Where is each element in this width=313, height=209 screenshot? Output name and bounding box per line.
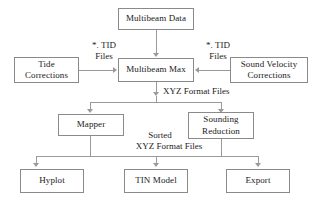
node-export[interactable]: Export: [226, 169, 290, 193]
arrowhead-bus-to-hyplot: [33, 163, 39, 167]
flowchart-canvas: Multibeam Data Tide Corrections Multibea…: [0, 0, 313, 209]
edge-label-xyz-format-files: XYZ Format Files: [163, 86, 253, 97]
node-mapper[interactable]: Mapper: [58, 114, 124, 136]
arrowhead-data-to-max: [153, 53, 159, 57]
edge-label-tid-files-right: *. TID Files: [198, 40, 238, 63]
node-hyplot-label: Hyplot: [39, 175, 65, 186]
node-mapper-label: Mapper: [77, 119, 106, 130]
arrowhead-bus-to-export: [255, 163, 261, 167]
node-multibeam-max[interactable]: Multibeam Max: [118, 58, 194, 82]
edge-label-tid-files-left: *. TID Files: [84, 40, 124, 63]
node-hyplot[interactable]: Hyplot: [20, 169, 84, 193]
arrowhead-tide-to-max: [113, 67, 117, 73]
connector-data-to-max: [156, 30, 157, 54]
node-multibeam-data[interactable]: Multibeam Data: [118, 8, 194, 30]
arrowhead-xyz-to-mapper: [87, 109, 93, 113]
connector-svc-to-max: [199, 70, 230, 71]
node-sounding-reduction-label: Sounding Reduction: [202, 114, 240, 137]
node-tide-corrections-label: Tide Corrections: [25, 59, 68, 82]
node-sound-velocity-corrections[interactable]: Sound Velocity Corrections: [230, 57, 308, 83]
node-sound-velocity-corrections-label: Sound Velocity Corrections: [241, 59, 298, 82]
node-export-label: Export: [245, 175, 270, 186]
edge-label-sorted: Sorted: [137, 130, 183, 141]
node-tide-corrections[interactable]: Tide Corrections: [14, 57, 79, 83]
connector-bottom-bus: [36, 156, 258, 157]
node-multibeam-data-label: Multibeam Data: [126, 13, 186, 24]
connector-sounding-down: [221, 139, 222, 156]
connector-mapper-down: [90, 136, 91, 156]
connector-tide-to-max: [79, 70, 113, 71]
arrowhead-bus-to-tin: [153, 163, 159, 167]
node-tin-model-label: TIN Model: [135, 175, 177, 186]
node-tin-model[interactable]: TIN Model: [124, 169, 188, 193]
edge-label-sorted-xyz-format-files: XYZ Format Files: [120, 141, 218, 152]
arrowhead-svc-to-max: [195, 67, 199, 73]
node-multibeam-max-label: Multibeam Max: [126, 64, 186, 75]
connector-xyz-bus: [90, 102, 222, 103]
node-sounding-reduction[interactable]: Sounding Reduction: [188, 112, 254, 139]
